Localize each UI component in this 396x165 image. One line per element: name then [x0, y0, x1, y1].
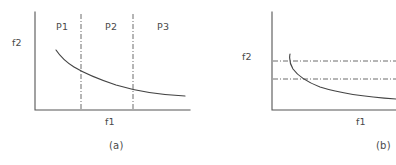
panel-a-plot [0, 0, 200, 165]
x-axis-label: f1 [356, 116, 366, 127]
figure-container: f2 f1 P1 P2 P3 (a) f2 f1 (b) [0, 0, 396, 165]
pareto-front-curve [56, 50, 185, 96]
region-label-p1: P1 [56, 21, 68, 32]
region-label-p3: P3 [157, 21, 169, 32]
panel-b-plot [196, 0, 396, 165]
y-axis-label: f2 [242, 51, 252, 62]
region-label-p2: P2 [105, 21, 117, 32]
panel-a: f2 f1 P1 P2 P3 (a) [0, 0, 200, 165]
panel-a-caption: (a) [109, 140, 124, 151]
panel-b: f2 f1 (b) [196, 0, 396, 165]
panel-b-caption: (b) [376, 140, 391, 151]
x-axis-label: f1 [105, 116, 115, 127]
y-axis-label: f2 [12, 37, 22, 48]
